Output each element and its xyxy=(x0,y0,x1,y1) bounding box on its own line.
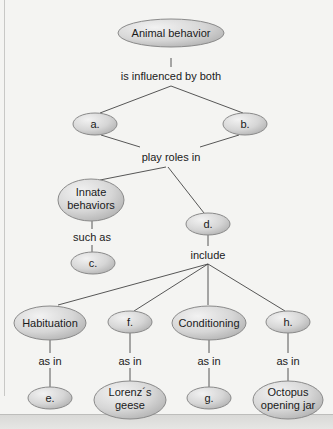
node-habituation: Habituation xyxy=(14,306,86,340)
link-label-play-roles: play roles in xyxy=(142,151,201,163)
link-label-such-as: such as xyxy=(73,231,111,243)
node-innate-behaviors: Innate behaviors xyxy=(58,179,124,221)
node-c: c. xyxy=(71,252,115,274)
node-b: b. xyxy=(223,113,267,135)
link-label-as-in: as in xyxy=(276,355,299,367)
link-label-as-in: as in xyxy=(197,355,220,367)
node-animal-behavior: Animal behavior xyxy=(118,19,224,47)
edges xyxy=(50,58,288,387)
concept-map: Animal behavior is influenced by both a.… xyxy=(0,0,333,429)
link-label-influenced: is influenced by both xyxy=(121,70,221,82)
node-label: Conditioning xyxy=(178,317,239,329)
node-lorenzs-geese: Lorenz´s geese xyxy=(94,381,166,419)
node-label-line2: opening jar xyxy=(261,399,316,411)
node-label: d. xyxy=(203,218,212,230)
node-label: f. xyxy=(127,316,133,328)
node-label: a. xyxy=(90,118,99,130)
node-label: e. xyxy=(45,392,54,404)
node-label-line2: geese xyxy=(115,399,145,411)
node-label-line1: Lorenz´s xyxy=(109,386,152,398)
node-d: d. xyxy=(186,213,230,235)
node-label: h. xyxy=(283,316,292,328)
link-label-as-in: as in xyxy=(118,355,141,367)
node-label: Habituation xyxy=(22,317,78,329)
node-f: f. xyxy=(108,311,152,333)
link-label-include: include xyxy=(191,249,226,261)
node-label: g. xyxy=(204,392,213,404)
node-g: g. xyxy=(187,387,231,409)
node-label-line1: Innate xyxy=(76,186,107,198)
node-a: a. xyxy=(73,113,117,135)
node-label-line2: behaviors xyxy=(67,199,115,211)
node-label-line1: Octopus xyxy=(268,386,309,398)
node-label: c. xyxy=(89,257,98,269)
node-label: b. xyxy=(240,118,249,130)
node-e: e. xyxy=(28,387,72,409)
node-octopus-opening-jar: Octopus opening jar xyxy=(253,381,323,419)
node-label: Animal behavior xyxy=(132,27,211,39)
node-h: h. xyxy=(266,311,310,333)
link-label-as-in: as in xyxy=(38,355,61,367)
node-conditioning: Conditioning xyxy=(172,306,246,340)
